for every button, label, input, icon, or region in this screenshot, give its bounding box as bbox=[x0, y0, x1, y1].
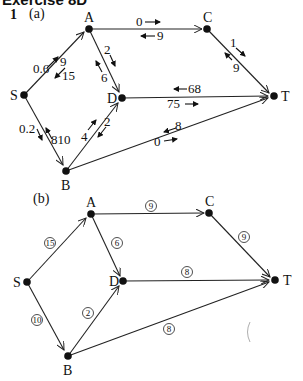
flow-label: 8 bbox=[175, 118, 182, 133]
flow-label: 2 bbox=[104, 42, 111, 57]
flow-label: 15 bbox=[46, 238, 56, 248]
node-label: T bbox=[283, 273, 292, 288]
flow-label: 0.2 bbox=[19, 121, 35, 136]
flow-label: 4 bbox=[81, 129, 88, 144]
flow-label: 10 bbox=[33, 315, 43, 325]
edge-c-t bbox=[209, 213, 270, 277]
edge-d-t bbox=[122, 96, 268, 98]
flow-label: 8 bbox=[185, 267, 190, 277]
node-label: S bbox=[10, 88, 18, 103]
node-s bbox=[23, 278, 31, 286]
flow-label: 1 bbox=[230, 35, 237, 50]
node-label: C bbox=[205, 194, 214, 209]
flow-label: 2 bbox=[104, 114, 111, 129]
node-b bbox=[62, 167, 70, 175]
node-label: D bbox=[109, 274, 119, 289]
flow-label: 15 bbox=[62, 68, 75, 83]
part-a-graph bbox=[24, 29, 269, 171]
flow-label: 9 bbox=[149, 201, 154, 211]
node-a bbox=[85, 25, 93, 33]
node-label: A bbox=[84, 10, 95, 25]
network-diagrams: 0.6 9 15 0 9 2 6 1 9 68 75 0.2 810 4 2 8… bbox=[0, 0, 303, 381]
edge-a-c bbox=[91, 213, 204, 214]
node-label: D bbox=[107, 91, 117, 106]
flow-labels-a: 0.6 9 15 0 9 2 6 1 9 68 75 0.2 810 4 2 8… bbox=[19, 14, 240, 149]
node-b bbox=[64, 352, 72, 360]
nodes-a bbox=[20, 25, 278, 175]
node-t bbox=[270, 92, 278, 100]
node-label: C bbox=[203, 10, 212, 25]
edge-b-d bbox=[68, 286, 119, 356]
arrow-icon bbox=[236, 48, 245, 56]
pencil-mark bbox=[248, 322, 251, 342]
node-label: A bbox=[86, 195, 97, 210]
arrow-icon bbox=[88, 120, 96, 130]
flow-label: 2 bbox=[86, 308, 91, 318]
flow-label: 0 bbox=[154, 134, 161, 149]
node-a bbox=[87, 210, 95, 218]
node-label: B bbox=[61, 178, 70, 193]
node-d bbox=[119, 277, 127, 285]
flow-label: 9 bbox=[60, 54, 67, 69]
node-labels-b: A C S D T B bbox=[13, 194, 292, 378]
flow-label: 6 bbox=[101, 70, 108, 85]
flow-label: 8 bbox=[167, 324, 172, 334]
arrow-icon bbox=[37, 129, 42, 140]
flow-label: 9 bbox=[157, 28, 164, 43]
node-c bbox=[203, 25, 211, 33]
node-s bbox=[20, 91, 28, 99]
flow-label: 68 bbox=[188, 81, 201, 96]
nodes-b bbox=[23, 209, 279, 360]
node-d bbox=[118, 94, 126, 102]
node-label: B bbox=[63, 363, 72, 378]
node-c bbox=[205, 209, 213, 217]
node-label: T bbox=[281, 89, 290, 104]
arrow-icon bbox=[110, 55, 115, 66]
flow-label: 0.6 bbox=[33, 61, 50, 76]
node-t bbox=[271, 276, 279, 284]
flow-label: 9 bbox=[242, 232, 247, 242]
arrow-icon bbox=[164, 139, 177, 141]
edge-b-t bbox=[68, 282, 269, 356]
part-b-graph bbox=[27, 213, 270, 356]
flow-label: 75 bbox=[167, 96, 180, 111]
node-labels-a: A C S D T B bbox=[10, 10, 290, 193]
flow-labels-b: 15 9 6 9 8 10 2 8 bbox=[33, 201, 247, 334]
flow-label: 6 bbox=[115, 238, 120, 248]
flow-label: 0 bbox=[136, 14, 143, 29]
node-label: S bbox=[13, 275, 21, 290]
flow-label: 9 bbox=[233, 60, 240, 75]
edge-d-t bbox=[123, 280, 269, 281]
edge-s-a bbox=[27, 218, 86, 282]
flow-label: 810 bbox=[51, 132, 71, 147]
